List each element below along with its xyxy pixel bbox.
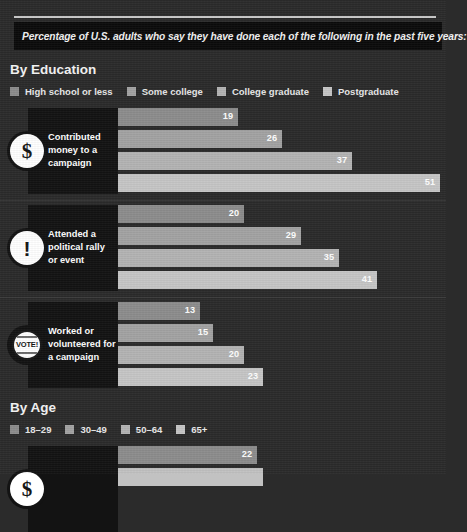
bar-row: 13 [118, 302, 446, 320]
banner: Percentage of U.S. adults who say they h… [14, 22, 442, 50]
legend-item[interactable]: 30–49 [65, 424, 106, 435]
group-panel-overlay: $ [28, 446, 118, 532]
group-label: Worked or volunteered for a campaign [48, 325, 116, 365]
bar-value: 19 [223, 112, 238, 121]
exclamation-icon: ! [10, 231, 44, 265]
bar-row: 41 [118, 271, 446, 289]
legend-item[interactable]: Postgraduate [323, 86, 399, 97]
bar-value: 51 [425, 178, 440, 187]
bar-row: 19 [118, 108, 446, 126]
bar[interactable]: 51 [118, 174, 440, 192]
bar[interactable]: 37 [118, 152, 352, 170]
legend-item[interactable]: Some college [127, 86, 203, 97]
bars: 22 [118, 446, 446, 464]
legend-label: 50–64 [136, 424, 162, 435]
bar-row: 15 [118, 324, 446, 342]
legend-swatch-icon [10, 87, 19, 96]
bar-value: 29 [286, 231, 301, 240]
bar[interactable]: 20 [118, 346, 244, 364]
bar-row: 23 [118, 368, 446, 386]
dollar-icon-glyph: $ [22, 141, 33, 162]
bars: 19 26 37 51 [118, 108, 446, 126]
group-label: Contributed money to a campaign [48, 131, 116, 171]
bar-group-worked-volunteered: VOTE! Worked or volunteered for a campai… [0, 302, 446, 388]
legend-by-education: High school or less Some college College… [10, 86, 399, 97]
bar-value: 23 [248, 372, 263, 381]
bar-group-by-age-first: $ 22 [0, 446, 446, 532]
legend-item[interactable]: College graduate [217, 86, 309, 97]
bar[interactable] [118, 468, 263, 486]
legend-item[interactable]: 18–29 [10, 424, 51, 435]
bar[interactable]: 23 [118, 368, 263, 386]
bar-row: 35 [118, 249, 446, 267]
legend-item[interactable]: 65+ [176, 424, 207, 435]
bar-value: 22 [242, 450, 257, 459]
bar-row: 37 [118, 152, 446, 170]
bar[interactable]: 22 [118, 446, 257, 464]
vote-badge-icon-glyph: VOTE! [16, 341, 38, 349]
legend-label: 30–49 [80, 424, 106, 435]
bar-value: 35 [324, 253, 339, 262]
legend-swatch-icon [176, 425, 185, 434]
bars: 13 15 20 23 [118, 302, 446, 320]
bar-row: 29 [118, 227, 446, 245]
banner-text: Percentage of U.S. adults who say they h… [22, 31, 467, 42]
legend-label: Postgraduate [338, 86, 399, 97]
dollar-icon: $ [10, 134, 44, 168]
bar-value: 26 [267, 134, 282, 143]
bar-value: 13 [185, 306, 200, 315]
group-panel-overlay: VOTE! Worked or volunteered for a campai… [28, 302, 118, 388]
bar[interactable]: 26 [118, 130, 282, 148]
group-divider [0, 200, 446, 201]
legend-swatch-icon [10, 425, 19, 434]
top-divider-rule [14, 16, 436, 18]
legend-swatch-icon [121, 425, 130, 434]
legend-label: College graduate [232, 86, 309, 97]
bar-row [118, 468, 446, 486]
vote-badge-icon-face: VOTE! [12, 330, 42, 360]
legend-swatch-icon [65, 425, 74, 434]
legend-swatch-icon [127, 87, 136, 96]
bar-group-attended-rally: ! Attended a political rally or event 20… [0, 205, 446, 291]
bar[interactable]: 29 [118, 227, 301, 245]
bar-row: 20 [118, 205, 446, 223]
bar-value: 20 [229, 209, 244, 218]
bar[interactable]: 19 [118, 108, 238, 126]
group-panel-overlay: $ Contributed money to a campaign [28, 108, 118, 194]
bar[interactable]: 15 [118, 324, 213, 342]
legend-item[interactable]: High school or less [10, 86, 113, 97]
legend-swatch-icon [323, 87, 332, 96]
bar[interactable]: 35 [118, 249, 339, 267]
legend-label: 18–29 [25, 424, 51, 435]
legend-swatch-icon [217, 87, 226, 96]
bar-value: 37 [337, 156, 352, 165]
bar[interactable]: 41 [118, 271, 377, 289]
group-divider [0, 297, 446, 298]
exclamation-icon-glyph: ! [24, 238, 31, 259]
vote-badge-icon: VOTE! [10, 328, 44, 362]
bar-row: 20 [118, 346, 446, 364]
bar-group-contributed-money: $ Contributed money to a campaign 19 26 … [0, 108, 446, 194]
bar-row: 51 [118, 174, 446, 192]
bar[interactable]: 20 [118, 205, 244, 223]
dollar-icon: $ [10, 472, 44, 506]
legend-by-age: 18–29 30–49 50–64 65+ [10, 424, 207, 435]
legend-label: Some college [142, 86, 203, 97]
dollar-icon-glyph: $ [22, 479, 33, 500]
legend-item[interactable]: 50–64 [121, 424, 162, 435]
bars: 20 29 35 41 [118, 205, 446, 223]
group-label: Attended a political rally or event [48, 228, 116, 268]
legend-label: High school or less [25, 86, 113, 97]
bar-value: 20 [229, 350, 244, 359]
bar[interactable]: 13 [118, 302, 200, 320]
section-title-by-education: By Education [10, 62, 96, 77]
bar-row: 22 [118, 446, 446, 464]
bar-row: 26 [118, 130, 446, 148]
bar-value: 41 [362, 275, 377, 284]
legend-label: 65+ [191, 424, 207, 435]
section-title-by-age: By Age [10, 400, 56, 415]
group-panel-overlay: ! Attended a political rally or event [28, 205, 118, 291]
bar-value: 15 [198, 328, 213, 337]
